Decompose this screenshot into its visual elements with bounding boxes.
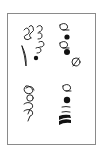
filled-dot <box>64 49 70 55</box>
filled-dot <box>64 34 69 39</box>
glyph-figure <box>0 0 103 153</box>
filled-dot <box>64 97 70 103</box>
filled-wedge <box>59 115 71 120</box>
glyph-group-top-left <box>22 26 44 67</box>
filled-dot <box>34 56 38 60</box>
glyph-group-top-right <box>60 24 80 67</box>
glyph-group-bottom-left <box>24 86 34 121</box>
filled-wedge <box>59 119 71 125</box>
